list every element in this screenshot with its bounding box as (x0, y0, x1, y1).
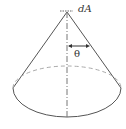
cone-figure (0, 0, 126, 129)
area-element-label: dA (78, 3, 92, 14)
arrowhead-left-icon (68, 44, 72, 48)
cone-diagram: dA θ (0, 0, 126, 129)
arrowhead-right-icon (86, 44, 90, 48)
half-angle-label: θ (74, 48, 80, 59)
